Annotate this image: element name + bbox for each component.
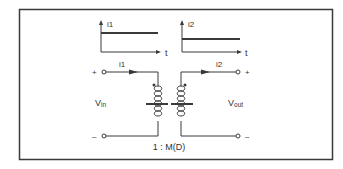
- secondary-voltage-label: Vout: [228, 98, 243, 108]
- primary-minus-label: –: [92, 132, 97, 141]
- secondary-plus-label: +: [245, 68, 250, 77]
- arrow-right-icon: [237, 50, 242, 54]
- waveform-i2-time-label: t: [245, 48, 248, 58]
- coil-icon: [154, 86, 162, 116]
- waveform-i1-label: i1: [107, 20, 114, 29]
- polarity-dot-icon: [184, 84, 187, 87]
- waveform-i2: i2 t: [180, 20, 248, 58]
- waveform-i1: i1 t: [99, 20, 168, 58]
- arrow-up-icon: [99, 20, 103, 25]
- primary-plus-label: +: [92, 68, 97, 77]
- terminal-primary-minus: [102, 134, 106, 138]
- waveform-i2-label: i2: [188, 20, 195, 29]
- primary-current-label: i1: [119, 60, 126, 69]
- current-arrow-icon: [201, 70, 210, 75]
- diagram-frame: [20, 10, 333, 160]
- primary-circuit: + – i1 Vin: [92, 60, 158, 141]
- terminal-secondary-minus: [236, 134, 240, 138]
- primary-winding: [153, 84, 162, 117]
- primary-voltage-label: Vin: [95, 98, 106, 108]
- arrow-right-icon: [156, 50, 161, 54]
- coil-icon: [177, 86, 185, 116]
- polarity-dot-icon: [153, 84, 156, 87]
- terminal-primary-plus: [102, 70, 106, 74]
- turns-ratio-label: 1 : M(D): [153, 142, 186, 152]
- transformer-diagram: i1 t i2 t + – i1 Vin + –: [0, 0, 343, 169]
- secondary-current-label: i2: [216, 60, 223, 69]
- secondary-winding: [177, 84, 186, 117]
- arrow-up-icon: [180, 20, 184, 25]
- waveform-i1-time-label: t: [165, 48, 168, 58]
- secondary-minus-label: –: [245, 132, 250, 141]
- terminal-secondary-plus: [236, 70, 240, 74]
- current-arrow-icon: [129, 70, 138, 75]
- secondary-circuit: + – i2 Vout: [181, 60, 250, 141]
